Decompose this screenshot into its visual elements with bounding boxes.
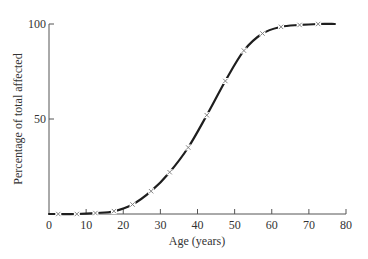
x-tick-label: 40 <box>192 218 204 232</box>
sigmoid-chart: 0102030405060708050100 Age (years) Perce… <box>0 0 368 259</box>
x-tick-label: 0 <box>46 218 52 232</box>
x-tick-label: 10 <box>80 218 92 232</box>
x-tick-label: 70 <box>303 218 315 232</box>
x-tick-label: 60 <box>266 218 278 232</box>
y-tick-label: 50 <box>34 112 46 126</box>
y-tick-label: 100 <box>28 17 46 31</box>
x-tick-label: 30 <box>154 218 166 232</box>
sigmoid-line <box>49 24 335 214</box>
y-axis-label: Percentage of total affected <box>11 53 25 184</box>
data-markers <box>55 21 321 217</box>
x-tick-label: 20 <box>117 218 129 232</box>
x-tick-label: 50 <box>229 218 241 232</box>
data-curve <box>49 24 335 214</box>
x-tick-label: 80 <box>340 218 352 232</box>
axes: 0102030405060708050100 <box>28 17 352 232</box>
x-axis-label: Age (years) <box>169 234 225 248</box>
